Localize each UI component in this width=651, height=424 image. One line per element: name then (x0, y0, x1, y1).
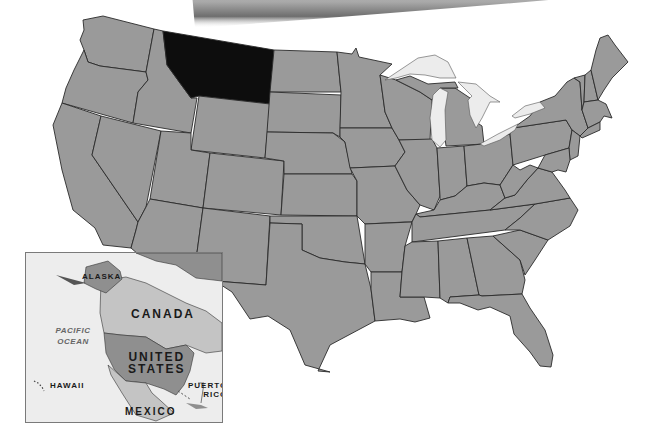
label-canada: CANADA (131, 307, 195, 321)
label-rico: RICO (203, 390, 223, 399)
label-puerto-rico: PUERTO RICO (188, 381, 223, 399)
lake-michigan (430, 88, 448, 147)
label-hawaii: HAWAII (50, 381, 84, 390)
state-colorado[interactable] (203, 153, 284, 215)
state-maine[interactable] (591, 35, 628, 100)
label-states: STATES (128, 362, 186, 376)
label-united-states: UNITED STATES (128, 351, 186, 375)
state-north-dakota[interactable] (270, 50, 341, 92)
label-pacific: PACIFIC (56, 326, 91, 335)
state-south-dakota[interactable] (267, 92, 341, 137)
label-alaska: ALASKA (82, 272, 121, 281)
label-mexico: MEXICO (125, 406, 176, 417)
lake-superior (385, 55, 456, 80)
label-ocean: OCEAN (57, 337, 88, 346)
label-pacific-ocean: PACIFIC OCEAN (48, 325, 98, 347)
state-wyoming[interactable] (191, 96, 270, 158)
state-kansas[interactable] (281, 174, 357, 216)
north-america-inset: ALASKA CANADA PACIFIC OCEAN UNITED STATE… (25, 252, 223, 423)
state-florida[interactable] (448, 294, 553, 367)
label-puerto: PUERTO (188, 381, 223, 390)
state-mississippi[interactable] (400, 241, 440, 298)
